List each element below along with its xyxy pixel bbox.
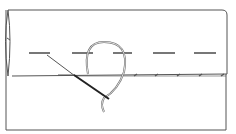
illustration: [0, 0, 236, 134]
fabric-outline: [6, 10, 226, 130]
folded-layer-outline: [8, 10, 227, 76]
thread: [47, 55, 75, 76]
needle-icon: [74, 75, 109, 99]
sewing-diagram: [0, 0, 236, 134]
